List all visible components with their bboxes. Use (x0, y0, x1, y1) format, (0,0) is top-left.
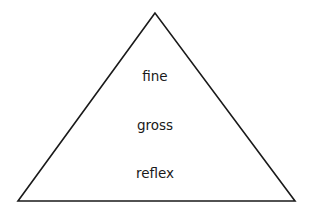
pyramid-level-middle-label: gross (0, 117, 310, 133)
pyramid-triangle-shape (0, 0, 310, 214)
pyramid-level-top-label: fine (0, 68, 310, 84)
pyramid-diagram: fine gross reflex (0, 0, 310, 214)
pyramid-level-bottom-label: reflex (0, 165, 310, 181)
